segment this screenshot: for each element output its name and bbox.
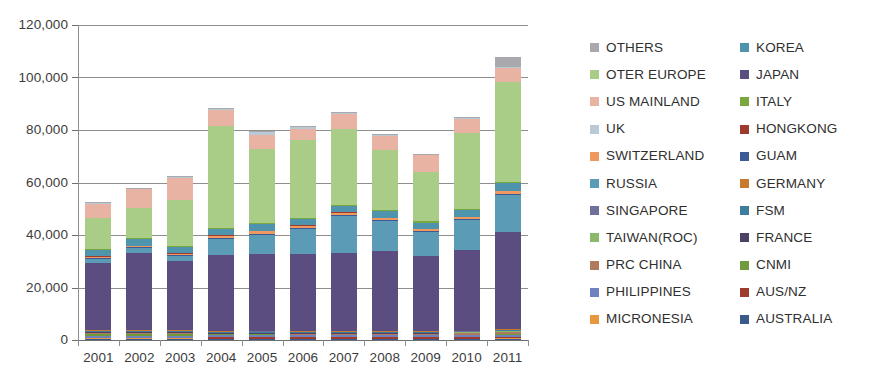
legend-item-italy[interactable]: ITALY — [740, 88, 876, 115]
bar-2006[interactable] — [290, 126, 316, 340]
legend-item-hongkong[interactable]: HONGKONG — [740, 116, 876, 143]
bar-2007[interactable] — [331, 112, 357, 340]
bar-segment-oter-europe — [249, 149, 275, 223]
legend-label: MICRONESIA — [606, 312, 693, 326]
bar-2002[interactable] — [126, 188, 152, 340]
legend-swatch-icon — [590, 233, 599, 242]
x-tick-mark — [487, 340, 488, 346]
legend-item-germany[interactable]: GERMANY — [740, 170, 876, 197]
bar-segment-japan — [454, 250, 480, 331]
x-axis-line — [78, 340, 529, 341]
bar-segment-russia — [495, 195, 521, 232]
x-tick-mark — [119, 340, 120, 346]
legend-label: TAIWAN(ROC) — [606, 231, 698, 245]
legend-swatch-icon — [590, 206, 599, 215]
legend-swatch-icon — [740, 43, 749, 52]
y-tick-label: 40,000 — [0, 228, 68, 242]
legend-label: KOREA — [756, 41, 804, 55]
bar-segment-australia — [126, 339, 152, 340]
bar-segment-australia — [208, 339, 234, 340]
legend-swatch-icon — [740, 152, 749, 161]
x-tick-label-2009: 2009 — [403, 351, 449, 365]
bar-2003[interactable] — [167, 176, 193, 340]
legend-swatch-icon — [590, 97, 599, 106]
y-tick-label: 60,000 — [0, 176, 68, 190]
bar-segment-us-mainland — [290, 129, 316, 141]
legend-item-uk[interactable]: UK — [590, 116, 740, 143]
bar-segment-russia — [372, 221, 398, 250]
bar-segment-oter-europe — [331, 129, 357, 205]
legend-item-australia[interactable]: AUSTRALIA — [740, 306, 876, 333]
legend-item-korea[interactable]: KOREA — [740, 34, 876, 61]
bar-segment-russia — [208, 239, 234, 256]
bar-segment-japan — [290, 254, 316, 331]
bar-segment-oter-europe — [85, 218, 111, 248]
x-tick-label-2008: 2008 — [362, 351, 408, 365]
bar-2009[interactable] — [413, 154, 439, 340]
bar-2005[interactable] — [249, 131, 275, 340]
legend-item-micronesia[interactable]: MICRONESIA — [590, 306, 740, 333]
x-tick-mark — [446, 340, 447, 346]
legend-item-japan[interactable]: JAPAN — [740, 61, 876, 88]
bar-2001[interactable] — [85, 202, 111, 340]
legend-item-russia[interactable]: RUSSIA — [590, 170, 740, 197]
bar-2011[interactable] — [495, 57, 521, 340]
bar-segment-korea — [495, 183, 521, 191]
legend-label: PHILIPPINES — [606, 285, 691, 299]
bar-segment-australia — [249, 339, 275, 340]
x-tick-mark — [283, 340, 284, 346]
legend-item-switzerland[interactable]: SWITZERLAND — [590, 143, 740, 170]
bar-2010[interactable] — [454, 117, 480, 340]
legend-label: GUAM — [756, 149, 797, 163]
legend-item-philippines[interactable]: PHILIPPINES — [590, 279, 740, 306]
bar-segment-oter-europe — [290, 140, 316, 217]
legend-swatch-icon — [590, 315, 599, 324]
legend-label: AUS/NZ — [756, 285, 806, 299]
legend-swatch-icon — [590, 43, 599, 52]
legend-swatch-icon — [740, 233, 749, 242]
legend-item-cnmi[interactable]: CNMI — [740, 252, 876, 279]
legend-item-prc-china[interactable]: PRC CHINA — [590, 252, 740, 279]
legend-item-france[interactable]: FRANCE — [740, 224, 876, 251]
x-tick-label-2003: 2003 — [157, 351, 203, 365]
legend-label: SINGAPORE — [606, 204, 688, 218]
x-tick-label-2001: 2001 — [75, 351, 121, 365]
legend-item-aus-nz[interactable]: AUS/NZ — [740, 279, 876, 306]
legend-label: HONGKONG — [756, 122, 837, 136]
legend-item-oter-europe[interactable]: OTER EUROPE — [590, 61, 740, 88]
bar-segment-australia — [413, 339, 439, 340]
bar-segment-japan — [126, 253, 152, 331]
bar-2004[interactable] — [208, 108, 234, 340]
legend-item-guam[interactable]: GUAM — [740, 143, 876, 170]
stacked-bar-chart: 020,00040,00060,00080,000100,000120,000 … — [0, 0, 880, 382]
bar-segment-us-mainland — [413, 155, 439, 171]
legend-item-others[interactable]: OTHERS — [590, 34, 740, 61]
bar-segment-japan — [331, 253, 357, 331]
legend-label: SWITZERLAND — [606, 149, 704, 163]
legend-swatch-icon — [590, 288, 599, 297]
x-tick-label-2006: 2006 — [280, 351, 326, 365]
x-tick-mark — [201, 340, 202, 346]
bar-segment-russia — [454, 220, 480, 250]
legend-label: JAPAN — [756, 68, 799, 82]
y-tick-label: 120,000 — [0, 18, 68, 32]
bar-segment-australia — [454, 339, 480, 340]
legend-item-us-mainland[interactable]: US MAINLAND — [590, 88, 740, 115]
y-tick-label: 20,000 — [0, 281, 68, 295]
legend-item-fsm[interactable]: FSM — [740, 197, 876, 224]
bar-segment-russia — [331, 216, 357, 253]
x-tick-mark — [323, 340, 324, 346]
bar-segment-others — [495, 57, 521, 67]
legend-swatch-icon — [740, 70, 749, 79]
bar-segment-japan — [413, 256, 439, 331]
bar-segment-us-mainland — [331, 114, 357, 129]
bar-segment-oter-europe — [413, 172, 439, 221]
bar-segment-australia — [290, 339, 316, 340]
bar-2008[interactable] — [372, 134, 398, 340]
legend-item-singapore[interactable]: SINGAPORE — [590, 197, 740, 224]
x-tick-label-2005: 2005 — [239, 351, 285, 365]
legend-item-taiwan-roc-[interactable]: TAIWAN(ROC) — [590, 224, 740, 251]
x-tick-label-2002: 2002 — [116, 351, 162, 365]
legend-swatch-icon — [590, 70, 599, 79]
bar-segment-japan — [495, 232, 521, 329]
